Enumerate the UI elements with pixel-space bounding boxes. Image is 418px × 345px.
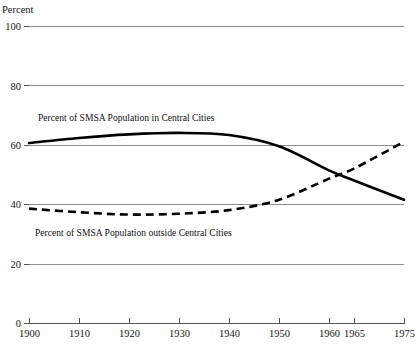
chart-container: 020406080100 190019101920193019401950196… — [0, 0, 418, 345]
x-axis-ticks: 190019101920193019401950196019651975 — [19, 318, 415, 339]
x-tick-label-1950: 1950 — [269, 328, 290, 339]
y-tick-label-40: 40 — [11, 199, 22, 210]
x-tick-label-1920: 1920 — [119, 328, 140, 339]
line-chart: 020406080100 190019101920193019401950196… — [0, 0, 418, 345]
series-annotations: Percent of SMSA Population in Central Ci… — [35, 112, 232, 238]
x-tick-label-1930: 1930 — [169, 328, 190, 339]
y-axis-ticks: 020406080100 — [5, 21, 29, 329]
x-tick-label-1960: 1960 — [319, 328, 340, 339]
x-tick-label-1965: 1965 — [344, 328, 365, 339]
x-tick-label-1940: 1940 — [219, 328, 240, 339]
series-line-in-central-cities — [29, 133, 404, 200]
series-annotation-0: Percent of SMSA Population in Central Ci… — [38, 112, 215, 123]
y-tick-label-20: 20 — [11, 259, 22, 270]
y-axis-title: Percent — [2, 4, 34, 15]
x-tick-label-1900: 1900 — [19, 328, 40, 339]
y-tick-label-80: 80 — [11, 81, 22, 92]
y-tick-label-60: 60 — [11, 140, 22, 151]
y-tick-label-100: 100 — [5, 21, 21, 32]
series-annotation-1: Percent of SMSA Population outside Centr… — [35, 227, 232, 238]
x-tick-label-1975: 1975 — [394, 328, 415, 339]
x-tick-label-1910: 1910 — [69, 328, 90, 339]
x-axis — [29, 318, 404, 324]
